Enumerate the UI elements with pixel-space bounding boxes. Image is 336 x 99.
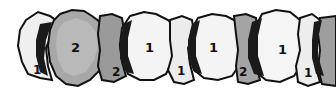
label-type: 1 xyxy=(145,40,154,55)
label-type: 1 xyxy=(209,40,218,55)
label-type: 2 xyxy=(112,65,120,79)
label-type: 1 xyxy=(33,63,41,77)
label-type: 2 xyxy=(239,65,247,79)
label-type: 2 xyxy=(71,40,80,55)
blob-diagram: 1 2 2 1 1 1 2 1 1 xyxy=(0,0,336,99)
label-type: 1 xyxy=(177,64,185,78)
label-type: 1 xyxy=(278,42,287,57)
label-type: 1 xyxy=(304,66,312,80)
blob-2-edge xyxy=(318,16,336,86)
